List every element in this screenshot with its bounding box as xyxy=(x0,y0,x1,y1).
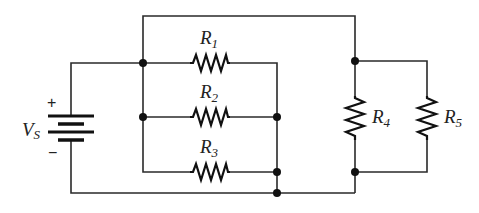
source-label: VS xyxy=(22,119,41,142)
wires xyxy=(71,16,427,193)
wire-r5-bottom xyxy=(355,140,427,172)
wire-left-col-b xyxy=(143,117,190,172)
svg-text:R1: R1 xyxy=(199,27,218,51)
resistor-r3: R3 xyxy=(190,136,230,180)
junction-nodes xyxy=(139,57,359,197)
node xyxy=(273,168,281,176)
circuit-diagram: + − VS R1 R2 R3 R4 R5 xyxy=(0,0,479,213)
wire-source-top xyxy=(71,63,143,116)
node xyxy=(351,168,359,176)
node xyxy=(139,59,147,67)
resistor-r1: R1 xyxy=(190,27,230,71)
resistor-r2: R2 xyxy=(190,81,230,125)
battery-symbol: + − VS xyxy=(22,94,94,161)
resistor-r5: R5 xyxy=(418,96,463,140)
svg-text:R5: R5 xyxy=(443,106,463,130)
node xyxy=(273,189,281,197)
node xyxy=(351,57,359,65)
minus-sign: − xyxy=(48,144,57,161)
node xyxy=(139,113,147,121)
wire-r5-top xyxy=(355,61,427,96)
svg-text:R3: R3 xyxy=(199,136,219,160)
wire-top xyxy=(143,16,355,63)
node xyxy=(273,113,281,121)
resistor-r4: R4 xyxy=(346,96,391,140)
svg-text:R4: R4 xyxy=(371,106,391,130)
svg-text:R2: R2 xyxy=(199,81,219,105)
plus-sign: + xyxy=(47,94,56,111)
wire-r1-right xyxy=(230,63,277,193)
